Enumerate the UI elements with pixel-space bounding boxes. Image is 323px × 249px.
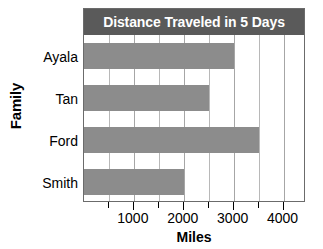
x-tick-2500	[208, 202, 209, 208]
x-tick-500	[108, 202, 109, 208]
y-axis-title: Family	[6, 66, 26, 146]
plot-inner	[84, 35, 304, 201]
bar-ford	[84, 127, 259, 153]
bar-ayala	[84, 43, 234, 69]
bar-chart: Family Ayala Tan Ford Smith Distance Tra…	[0, 0, 323, 249]
gridline-3500	[259, 35, 260, 201]
y-axis-tick-labels: Ayala Tan Ford Smith	[24, 36, 80, 202]
x-tick-1500	[158, 202, 159, 208]
gridline-3000	[234, 35, 235, 201]
y-axis-tick-label-0: Ayala	[43, 47, 78, 67]
chart-title: Distance Traveled in 5 Days	[84, 9, 304, 35]
x-tick-label-2000: 2000	[160, 210, 206, 226]
x-axis: 1000200030004000 Miles	[83, 202, 305, 248]
plot-area: Distance Traveled in 5 Days	[83, 8, 305, 202]
x-tick-label-4000: 4000	[260, 210, 306, 226]
x-tick-3000	[233, 202, 234, 210]
y-axis-tick-label-1: Tan	[55, 89, 78, 109]
x-tick-2000	[183, 202, 184, 210]
y-axis-tick-label-3: Smith	[42, 173, 78, 193]
x-axis-title: Miles	[83, 228, 305, 246]
x-tick-label-1000: 1000	[110, 210, 156, 226]
x-tick-4000	[283, 202, 284, 210]
x-tick-label-3000: 3000	[210, 210, 256, 226]
gridline-4000	[284, 35, 285, 201]
bar-smith	[84, 169, 184, 195]
x-tick-3500	[258, 202, 259, 208]
x-tick-1000	[133, 202, 134, 210]
y-axis-tick-label-2: Ford	[49, 131, 78, 151]
bar-tan	[84, 85, 209, 111]
